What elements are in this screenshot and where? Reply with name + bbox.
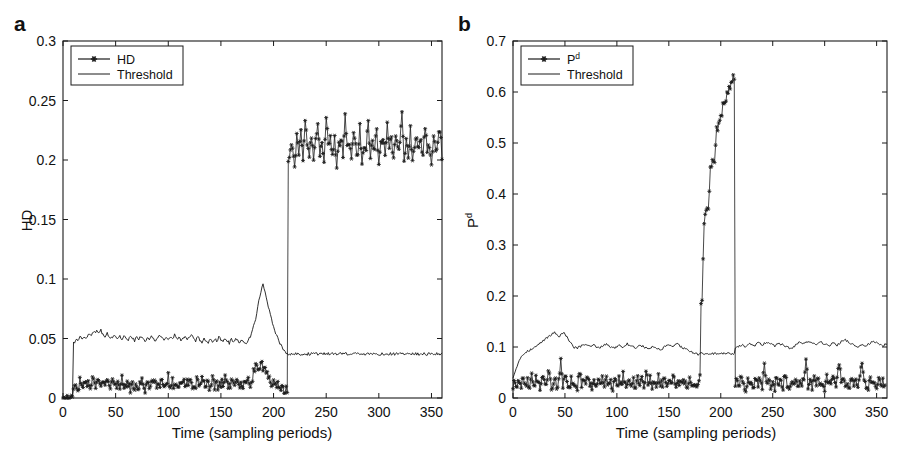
x-tick-label: 50	[557, 404, 573, 420]
y-tick-label: 0	[498, 390, 506, 406]
y-tick-label: 0.5	[487, 135, 507, 151]
legend-label-data: HD	[117, 53, 135, 67]
x-tick-label: 150	[657, 404, 681, 420]
x-tick-label: 0	[509, 404, 517, 420]
y-tick-label: 0.6	[487, 84, 507, 100]
x-tick-label: 250	[761, 404, 785, 420]
x-tick-label: 0	[59, 404, 67, 420]
y-tick-label: 0.1	[37, 271, 57, 287]
x-tick-label: 200	[709, 404, 733, 420]
figure-root: a HD Time (sampling periods) 05010015020…	[0, 0, 900, 466]
x-tick-label: 100	[605, 404, 629, 420]
x-tick-label: 350	[420, 404, 444, 420]
y-tick-label: 0.4	[487, 186, 507, 202]
y-tick-label: 0.2	[487, 288, 507, 304]
y-tick-label: 0.05	[29, 331, 56, 347]
y-tick-label: 0.1	[487, 339, 507, 355]
x-tick-label: 150	[209, 404, 233, 420]
x-tick-label: 200	[262, 404, 286, 420]
x-tick-label: 100	[157, 404, 181, 420]
series-data-line	[513, 75, 885, 392]
x-tick-label: 50	[108, 404, 124, 420]
y-tick-label: 0.15	[29, 212, 56, 228]
legend-label-threshold: Threshold	[117, 68, 173, 82]
legend-label-data-sup: d	[575, 51, 580, 61]
x-tick-label: 250	[315, 404, 339, 420]
y-tick-label: 0.3	[37, 33, 57, 49]
x-tick-label: 300	[813, 404, 837, 420]
x-tick-label: 350	[865, 404, 889, 420]
x-tick-label: 300	[367, 404, 391, 420]
panel-a-plot-area: 05010015020025030035000.050.10.150.20.25…	[0, 0, 450, 466]
panel-b: b Pd Time (sampling periods) 05010015020…	[450, 0, 900, 466]
legend-label-threshold: Threshold	[567, 68, 623, 82]
panel-b-plot-area: 05010015020025030035000.10.20.30.40.50.6…	[450, 0, 900, 466]
axes-frame	[63, 41, 442, 398]
y-tick-label: 0.2	[37, 152, 57, 168]
y-tick-label: 0.3	[487, 237, 507, 253]
y-tick-label: 0.25	[29, 93, 56, 109]
series-data-markers	[61, 110, 444, 400]
y-tick-label: 0.7	[487, 33, 507, 49]
panel-a: a HD Time (sampling periods) 05010015020…	[0, 0, 450, 466]
y-tick-label: 0	[48, 390, 56, 406]
